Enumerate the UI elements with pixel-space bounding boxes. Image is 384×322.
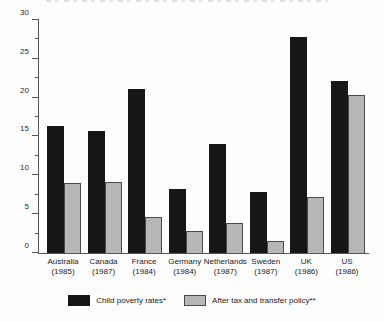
bar-group-us — [331, 81, 365, 253]
bar-child-poverty-australia — [47, 126, 64, 253]
bar-group-australia — [47, 126, 81, 253]
x-label-netherlands: Netherlands(1987) — [208, 257, 242, 277]
legend-swatch-after-tax-transfer — [184, 295, 206, 306]
y-tick-20 — [32, 97, 39, 98]
x-label-year: (1987) — [92, 267, 115, 277]
x-label-year: (1986) — [335, 267, 358, 277]
x-label-canada: Canada(1987) — [87, 257, 121, 277]
x-label-country: US — [341, 257, 352, 267]
x-label-france: France(1984) — [127, 257, 161, 277]
plot-area: 051015202530 — [38, 20, 369, 254]
x-label-year: (1984) — [133, 267, 156, 277]
y-tick-0 — [32, 252, 39, 253]
bar-group-uk — [290, 37, 324, 253]
bars-region — [39, 20, 369, 253]
y-tick-25 — [32, 58, 39, 59]
x-label-country: UK — [301, 257, 312, 267]
y-tick-label-15: 15 — [20, 125, 29, 133]
bar-child-poverty-canada — [88, 131, 105, 253]
x-label-year: (1987) — [254, 267, 277, 277]
x-label-country: Sweden — [251, 257, 280, 267]
bar-group-sweden — [250, 192, 284, 253]
bar-child-poverty-uk — [290, 37, 307, 253]
bar-after-tax-us — [348, 95, 365, 253]
x-label-year: (1987) — [214, 267, 237, 277]
y-tick-label-0: 0 — [25, 242, 29, 250]
bar-after-tax-australia — [64, 183, 81, 253]
x-label-country: Germany — [168, 257, 201, 267]
legend-item-after-tax: After tax and transfer policy** — [184, 295, 316, 306]
x-label-country: Netherlands — [204, 257, 247, 267]
x-label-country: Canada — [90, 257, 118, 267]
bar-after-tax-netherlands — [226, 223, 243, 253]
bar-group-netherlands — [209, 144, 243, 253]
y-tick-label-10: 10 — [20, 164, 29, 172]
bar-after-tax-canada — [105, 182, 122, 253]
bar-after-tax-sweden — [267, 241, 284, 253]
bar-chart: 051015202530 Australia(1985)Canada(1987)… — [0, 0, 384, 322]
y-tick-30 — [32, 19, 39, 20]
bar-child-poverty-france — [128, 89, 145, 253]
legend-swatch-child-poverty-rates — [68, 295, 90, 306]
bar-after-tax-uk — [307, 197, 324, 253]
bar-child-poverty-germany — [169, 189, 186, 253]
x-label-germany: Germany(1984) — [168, 257, 202, 277]
x-label-sweden: Sweden(1987) — [249, 257, 283, 277]
x-label-uk: UK(1986) — [289, 257, 323, 277]
y-tick-5 — [32, 213, 39, 214]
y-tick-label-30: 30 — [20, 9, 29, 17]
legend-item-child-poverty: Child poverty rates* — [68, 295, 166, 306]
bar-group-germany — [169, 189, 203, 253]
legend-label-child-poverty-rates: Child poverty rates* — [96, 296, 166, 305]
legend: Child poverty rates* After tax and trans… — [0, 295, 384, 306]
y-tick-15 — [32, 135, 39, 136]
bar-group-france — [128, 89, 162, 253]
x-label-year: (1984) — [173, 267, 196, 277]
bar-child-poverty-sweden — [250, 192, 267, 253]
x-label-australia: Australia(1985) — [46, 257, 80, 277]
y-tick-label-5: 5 — [25, 203, 29, 211]
x-label-country: France — [132, 257, 157, 267]
x-label-year: (1986) — [295, 267, 318, 277]
bar-child-poverty-netherlands — [209, 144, 226, 253]
bar-after-tax-germany — [186, 231, 203, 253]
y-tick-label-25: 25 — [20, 48, 29, 56]
cropped-text-artifact — [46, 0, 328, 2]
bar-child-poverty-us — [331, 81, 348, 253]
legend-label-after-tax-transfer: After tax and transfer policy** — [212, 296, 316, 305]
x-label-country: Australia — [47, 257, 78, 267]
x-label-us: US(1986) — [330, 257, 364, 277]
x-label-year: (1985) — [51, 267, 74, 277]
y-tick-10 — [32, 174, 39, 175]
bar-after-tax-france — [145, 217, 162, 253]
x-axis-labels: Australia(1985)Canada(1987)France(1984)G… — [38, 257, 368, 277]
bar-group-canada — [88, 131, 122, 253]
y-tick-label-20: 20 — [20, 87, 29, 95]
